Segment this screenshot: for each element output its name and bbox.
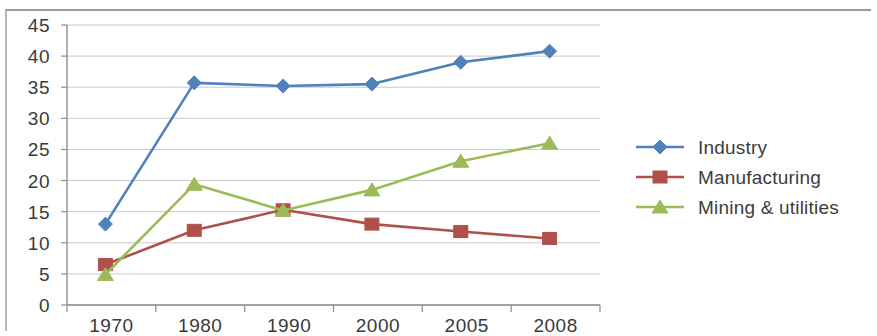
- series-line: [105, 210, 549, 265]
- data-point-marker: [98, 217, 112, 231]
- y-tick-label: 0: [39, 295, 50, 316]
- series-manufacturing: [98, 204, 556, 271]
- legend-item: Industry: [636, 137, 767, 158]
- y-tick-label: 30: [28, 108, 50, 129]
- data-point-marker: [543, 232, 557, 244]
- x-axis-tick-labels: 197019801990200020052008: [67, 305, 600, 336]
- x-tick-label: 2005: [445, 315, 489, 336]
- data-point-marker: [187, 76, 201, 90]
- data-point-marker: [365, 218, 379, 230]
- y-tick-label: 5: [39, 264, 50, 285]
- y-tick-label: 35: [28, 77, 50, 98]
- y-axis-tick-labels: 051015202530354045: [28, 15, 50, 316]
- x-tick-label: 2000: [356, 315, 400, 336]
- series-plots: [97, 44, 557, 280]
- legend-item: Manufacturing: [636, 167, 821, 188]
- chart-figure: 051015202530354045 197019801990200020052…: [0, 0, 877, 336]
- x-tick-label: 1980: [178, 315, 222, 336]
- legend-item-label: Manufacturing: [698, 167, 821, 188]
- y-tick-label: 45: [28, 15, 50, 36]
- axes: [67, 25, 600, 305]
- legend-item-label: Mining & utilities: [698, 197, 839, 218]
- x-tick-label: 1990: [267, 315, 311, 336]
- x-tick-label: 2008: [533, 315, 577, 336]
- y-tick-label: 20: [28, 171, 50, 192]
- series-line: [105, 143, 549, 274]
- series-line: [105, 51, 549, 224]
- data-point-marker: [365, 77, 379, 91]
- data-point-marker: [454, 226, 468, 238]
- x-tick-label: 1970: [89, 315, 133, 336]
- series-mining-utilities: [97, 136, 557, 280]
- series-industry: [98, 44, 556, 231]
- legend-item: Mining & utilities: [636, 197, 839, 218]
- legend-item-label: Industry: [698, 137, 767, 158]
- data-point-marker: [187, 224, 201, 236]
- data-point-marker: [653, 171, 667, 183]
- y-tick-label: 25: [28, 139, 50, 160]
- y-tick-label: 40: [28, 46, 50, 67]
- y-tick-label: 10: [28, 233, 50, 254]
- y-tick-label: 15: [28, 202, 50, 223]
- data-point-marker: [454, 55, 468, 69]
- data-point-marker: [276, 79, 290, 93]
- line-chart: 051015202530354045 197019801990200020052…: [0, 0, 877, 336]
- data-point-marker: [653, 140, 667, 154]
- data-point-marker: [542, 136, 558, 149]
- data-point-marker: [186, 177, 202, 190]
- chart-legend: IndustryManufacturingMining & utilities: [636, 137, 839, 218]
